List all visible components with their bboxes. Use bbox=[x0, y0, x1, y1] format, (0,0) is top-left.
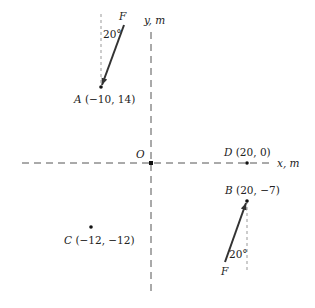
point-c bbox=[89, 225, 93, 229]
force-label-b: F bbox=[220, 265, 229, 277]
origin-label: O bbox=[136, 148, 145, 160]
angle-label-a: 20° bbox=[103, 28, 122, 40]
origin-point bbox=[149, 161, 153, 165]
x-axis-label: x, m bbox=[277, 157, 300, 169]
point-a-label: A (−10, 14) bbox=[73, 93, 135, 105]
point-a bbox=[99, 85, 103, 89]
point-c-label: C (−12, −12) bbox=[64, 234, 135, 246]
diagram-canvas: x, m y, m O F 20° A (−10, 14) D (20, 0) … bbox=[0, 0, 315, 308]
force-label-a: F bbox=[118, 10, 127, 22]
point-d bbox=[245, 161, 249, 165]
y-axis-label: y, m bbox=[143, 14, 165, 26]
point-b-label: B (20, −7) bbox=[224, 184, 280, 196]
point-b bbox=[245, 199, 249, 203]
angle-label-b: 20° bbox=[229, 248, 248, 260]
point-d-label: D (20, 0) bbox=[223, 146, 271, 158]
